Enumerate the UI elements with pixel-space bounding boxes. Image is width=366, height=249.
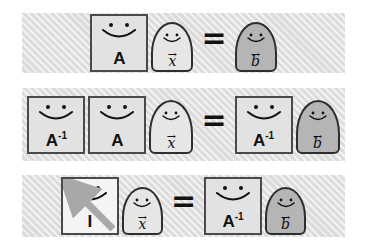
vector-arrow-accent: → [267, 212, 304, 223]
vector-arrow-accent: → [124, 212, 161, 223]
smiley-face-icon [243, 103, 285, 129]
vector-label: → x [124, 217, 161, 231]
matrix-letter: A [253, 131, 265, 150]
matrix-identity: I [61, 177, 119, 235]
equals-sign: = [166, 186, 201, 226]
vector-arrow-accent: → [237, 49, 275, 60]
matrix-A-inverse: A-1 [27, 96, 85, 154]
matrix-exponent: -1 [58, 130, 67, 141]
vector-arrow-accent: → [298, 131, 338, 142]
smiley-face-icon [212, 184, 254, 210]
vector-x: → x [122, 187, 163, 235]
vector-label: → b [298, 136, 338, 150]
matrix-label: A [90, 132, 144, 149]
matrix-exponent: -1 [265, 130, 274, 141]
matrix-letter: A [222, 212, 234, 231]
smiley-face-icon [159, 110, 183, 128]
equals-sign: = [196, 23, 231, 63]
matrix-A: A [88, 96, 146, 154]
vector-x: → x [151, 22, 193, 72]
vector-label: → x [151, 136, 191, 150]
matrix-A: A [90, 14, 148, 72]
equation-row-1-content: A → x = [90, 14, 276, 72]
equation-row-2: A-1 A [22, 88, 345, 161]
matrix-A-inverse: A-1 [235, 96, 293, 154]
equation-row-3: I → x = [22, 175, 345, 237]
vector-b: → b [235, 22, 277, 72]
smiley-face-icon [96, 103, 138, 129]
smiley-face-icon [35, 103, 77, 129]
matrix-A-inverse: A-1 [204, 177, 262, 235]
matrix-label: A-1 [206, 213, 260, 230]
vector-x: → x [149, 100, 193, 154]
matrix-label: A [92, 50, 146, 67]
equation-row-1: A → x = [22, 13, 345, 73]
vector-arrow-accent: → [153, 49, 191, 60]
equation-row-2-content: A-1 A [27, 96, 339, 154]
vector-b: → b [296, 100, 340, 154]
equals-sign: = [196, 105, 231, 145]
matrix-exponent: -1 [235, 211, 244, 222]
figure-canvas: A → x = [0, 0, 366, 249]
vector-b: → b [265, 187, 306, 235]
vector-arrow-accent: → [151, 131, 191, 142]
smiley-face-icon [306, 110, 330, 128]
smiley-face-icon [98, 21, 140, 47]
matrix-letter: A [46, 131, 58, 150]
vector-label: → b [237, 54, 275, 68]
matrix-label: A-1 [237, 132, 291, 149]
equation-row-3-content: I → x = [61, 177, 306, 235]
matrix-label: I [63, 213, 117, 230]
vector-label: → x [153, 54, 191, 68]
matrix-label: A-1 [29, 132, 83, 149]
vector-label: → b [267, 217, 304, 231]
